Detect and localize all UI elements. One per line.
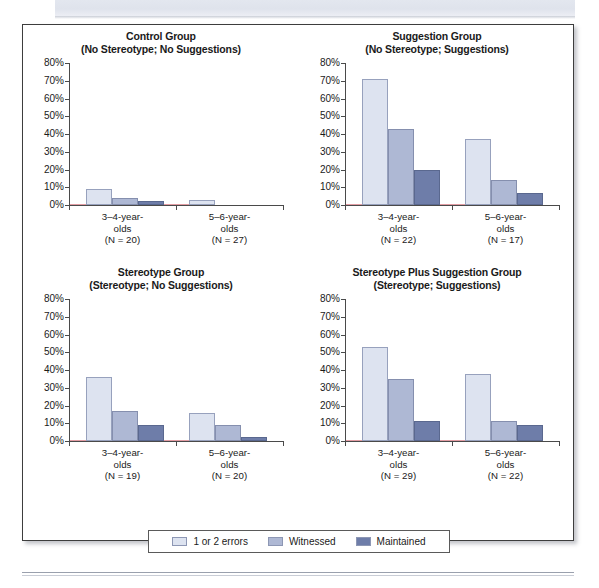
bar-group-1-0 — [362, 63, 440, 205]
bar-2-1-1 — [215, 425, 241, 441]
bar-0-0-2 — [138, 201, 164, 205]
y-tick-label-2-2: 60% — [27, 329, 69, 340]
legend-swatch-icon-1 — [268, 537, 283, 546]
y-axis-3: 80%70%60%50%40%30%20%10%0% — [303, 299, 345, 441]
bar-group-2-1 — [189, 299, 267, 441]
chart-panel-1: Suggestion Group(No Stereotype; Suggesti… — [299, 27, 575, 262]
chart-panel-0: Control Group(No Stereotype; No Suggesti… — [23, 27, 299, 262]
x-separator-1-1 — [452, 205, 453, 210]
x-category-2-1-line3: (N = 20) — [176, 470, 283, 482]
panel-title-0: Control Group(No Stereotype; No Suggesti… — [23, 27, 299, 55]
bar-1-0-0 — [362, 79, 388, 205]
bars-container-2 — [69, 299, 283, 441]
x-category-0-1-line1: 5–6-year- — [176, 211, 283, 223]
bar-3-0-0 — [362, 347, 388, 441]
y-tick-label-3-0: 80% — [303, 293, 345, 304]
x-category-3-1-line2: olds — [452, 459, 559, 471]
panel-grid: Control Group(No Stereotype; No Suggesti… — [23, 25, 575, 495]
y-tick-label-3-6: 20% — [303, 400, 345, 411]
bar-3-1-1 — [491, 421, 517, 441]
bar-3-0-2 — [414, 421, 440, 441]
panel-title-3: Stereotype Plus Suggestion Group(Stereot… — [299, 263, 575, 291]
bar-group-2-0 — [86, 299, 164, 441]
bar-3-1-0 — [465, 374, 491, 441]
y-axis-0: 80%70%60%50%40%30%20%10%0% — [27, 63, 69, 205]
x-category-3-0-line2: olds — [345, 459, 452, 471]
plot-area-1: 80%70%60%50%40%30%20%10%0%3–4-year-olds(… — [303, 59, 567, 249]
x-axis-labels-0: 3–4-year-olds(N = 20)5–6-year-olds(N = 2… — [69, 211, 283, 255]
panel-title-line1-2: Stereotype Group — [118, 266, 204, 278]
y-tick-label-3-7: 10% — [303, 417, 345, 428]
panel-title-line1-1: Suggestion Group — [392, 30, 481, 42]
x-category-3-1-line3: (N = 22) — [452, 470, 559, 482]
bar-1-1-1 — [491, 180, 517, 205]
y-tick-label-1-6: 20% — [303, 164, 345, 175]
x-separator-2-0 — [69, 441, 70, 446]
x-category-label-3-0: 3–4-year-olds(N = 29) — [345, 447, 452, 482]
x-category-2-1-line2: olds — [176, 459, 283, 471]
bar-group-0-0 — [86, 63, 164, 205]
x-separator-0-0 — [69, 205, 70, 210]
y-tick-label-3-5: 30% — [303, 382, 345, 393]
x-category-label-2-0: 3–4-year-olds(N = 19) — [69, 447, 176, 482]
y-tick-label-2-6: 20% — [27, 400, 69, 411]
y-tick-label-3-2: 60% — [303, 329, 345, 340]
y-tick-label-2-1: 70% — [27, 311, 69, 322]
chart-legend: 1 or 2 errorsWitnessedMaintained — [148, 530, 450, 553]
bar-1-0-2 — [414, 170, 440, 206]
x-category-3-0-line1: 3–4-year- — [345, 447, 452, 459]
legend-item-0: 1 or 2 errors — [172, 536, 247, 547]
y-tick-label-3-1: 70% — [303, 311, 345, 322]
bar-1-0-1 — [388, 129, 414, 205]
figure-frame: Control Group(No Stereotype; No Suggesti… — [22, 24, 574, 541]
bar-group-3-1 — [465, 299, 543, 441]
y-tick-label-1-7: 10% — [303, 181, 345, 192]
bar-group-1-1 — [465, 63, 543, 205]
y-tick-label-1-2: 60% — [303, 93, 345, 104]
x-separator-0-2 — [283, 205, 284, 210]
x-category-0-1-line2: olds — [176, 223, 283, 235]
bars-container-0 — [69, 63, 283, 205]
y-tick-label-2-7: 10% — [27, 417, 69, 428]
y-axis-1: 80%70%60%50%40%30%20%10%0% — [303, 63, 345, 205]
bar-0-0-1 — [112, 198, 138, 205]
bars-container-1 — [345, 63, 559, 205]
scan-top-band — [55, 0, 575, 16]
y-tick-label-2-0: 80% — [27, 293, 69, 304]
y-axis-2: 80%70%60%50%40%30%20%10%0% — [27, 299, 69, 441]
y-tick-label-2-5: 30% — [27, 382, 69, 393]
chart-panel-2: Stereotype Group(Stereotype; No Suggesti… — [23, 263, 299, 498]
x-category-3-1-line1: 5–6-year- — [452, 447, 559, 459]
x-category-1-0-line3: (N = 22) — [345, 234, 452, 246]
scan-top-band-shadow — [55, 16, 575, 19]
panel-title-line2-1: (No Stereotype; Suggestions) — [305, 43, 569, 56]
bar-2-0-1 — [112, 411, 138, 441]
panel-title-line1-0: Control Group — [126, 30, 196, 42]
plot-area-3: 80%70%60%50%40%30%20%10%0%3–4-year-olds(… — [303, 295, 567, 485]
x-axis-labels-1: 3–4-year-olds(N = 22)5–6-year-olds(N = 1… — [345, 211, 559, 255]
bar-3-0-1 — [388, 379, 414, 441]
panel-title-line2-2: (Stereotype; No Suggestions) — [29, 279, 293, 292]
y-tick-label-3-4: 40% — [303, 364, 345, 375]
y-tick-label-1-5: 30% — [303, 146, 345, 157]
panel-title-line2-3: (Stereotype; Suggestions) — [305, 279, 569, 292]
y-tick-label-0-6: 20% — [27, 164, 69, 175]
x-category-label-3-1: 5–6-year-olds(N = 22) — [452, 447, 559, 482]
x-category-1-1-line1: 5–6-year- — [452, 211, 559, 223]
x-category-1-0-line1: 3–4-year- — [345, 211, 452, 223]
chart-panel-3: Stereotype Plus Suggestion Group(Stereot… — [299, 263, 575, 498]
x-separator-2-2 — [283, 441, 284, 446]
x-category-label-2-1: 5–6-year-olds(N = 20) — [176, 447, 283, 482]
bar-1-1-0 — [465, 139, 491, 205]
y-tick-label-3-3: 50% — [303, 346, 345, 357]
plot-area-0: 80%70%60%50%40%30%20%10%0%3–4-year-olds(… — [27, 59, 291, 249]
y-tick-label-1-0: 80% — [303, 57, 345, 68]
x-category-2-0-line1: 3–4-year- — [69, 447, 176, 459]
x-axis-labels-3: 3–4-year-olds(N = 29)5–6-year-olds(N = 2… — [345, 447, 559, 491]
y-tick-label-0-1: 70% — [27, 75, 69, 86]
footer-rule-secondary — [22, 575, 574, 576]
y-tick-label-0-5: 30% — [27, 146, 69, 157]
bars-container-3 — [345, 299, 559, 441]
legend-label-2: Maintained — [377, 536, 426, 547]
y-tick-label-1-3: 50% — [303, 110, 345, 121]
